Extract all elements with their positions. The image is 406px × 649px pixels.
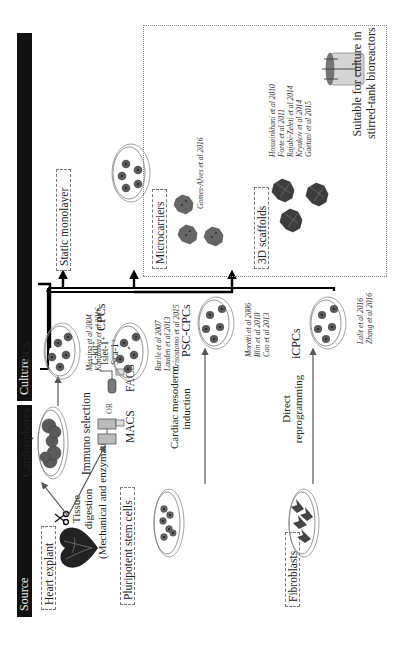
icpcs-dish-icon (306, 295, 350, 351)
citation: Kryukov et al 2014 (295, 84, 304, 157)
citation: Messina et al 2004 (85, 307, 94, 371)
3d-scaffolds-icon (270, 159, 340, 239)
bioreactor-note-line-2: stirred-tank bioreactors (364, 29, 378, 139)
microcarriers-label: Microcarriers (154, 201, 166, 264)
static-monolayer-box: Static monolayer (56, 169, 71, 271)
immuno-selection-label: Immuno selection (80, 392, 92, 475)
citation: Forte et al 2011 (277, 84, 286, 157)
icpcs-citations: Lalit et al 2016 Zhang et al 2016 (356, 293, 374, 344)
psc-cpcs-label: PSC-CPCs (180, 304, 192, 357)
diagram-canvas: Source Culture Heart explant Pluripotent… (0, 0, 406, 649)
direct-line-2: reprogramming (292, 369, 304, 449)
static-monolayer-label: Static monolayer (58, 188, 70, 266)
cpcs-label: CPCs (95, 304, 107, 331)
fibroblasts-dish-icon (285, 487, 323, 559)
psc-cpcs-citations: Moretti et al 2006 Blin et al 2010 Cao e… (244, 303, 271, 357)
citation: Lauden et al 2013 (163, 305, 172, 371)
citation: Zhang et al 2016 (365, 293, 374, 344)
3d-scaffolds-citations: Hosseinkhani et al 2010 Forte et al 2011… (268, 84, 313, 157)
bioreactor-note-line-1: Suitable for culture in (350, 29, 364, 139)
3d-scaffolds-box: 3D scaffolds (254, 187, 269, 269)
direct-line-1: Direct (280, 369, 292, 449)
cardiospheres-label: Cardiospheres (20, 408, 32, 477)
or-label: OR (104, 403, 116, 414)
icpcs-label: iCPCs (290, 328, 302, 359)
citation: Gaetani et al 2015 (304, 84, 313, 157)
citation: Hosseinkhani et al 2010 (268, 84, 277, 157)
cpcs-citations: Barile et al 2007 Lauden et al 2013 Cris… (154, 305, 181, 371)
cpcs-dish-icon (108, 321, 152, 383)
citation: Moretti et al 2006 (244, 303, 253, 357)
citation: Gomes-Alves et al 2016 (196, 138, 205, 209)
bioreactor-note: Suitable for culture in stirred-tank bio… (350, 29, 378, 139)
macs-label: MACS (124, 410, 136, 443)
cardiac-mesoderm-line-2: induction (180, 369, 192, 449)
cardiospheres-dish-icon (34, 405, 72, 481)
citation: Barile et al 2007 (154, 305, 163, 371)
direct-reprogramming-label: Direct reprogramming (280, 369, 304, 449)
pluripotent-dish-icon (150, 487, 188, 559)
figure-frame: Source Culture Heart explant Pluripotent… (0, 0, 406, 649)
cdcs-dish-icon (40, 321, 84, 381)
microcarriers-citations: Gomes-Alves et al 2016 (196, 138, 205, 209)
psc-cpcs-dish-icon (194, 295, 238, 351)
cardiac-mesoderm-induction-label: Cardiac mesoderm induction (168, 369, 192, 449)
cardiac-mesoderm-line-1: Cardiac mesoderm (168, 369, 180, 449)
microcarriers-box: Microcarriers (152, 189, 167, 269)
citation: Blin et al 2010 (253, 303, 262, 357)
cdcs-label: CDCs (20, 342, 32, 371)
citation: Rajabi-Zeleti et al 2014 (286, 84, 295, 157)
3d-scaffolds-label: 3D scaffolds (256, 206, 268, 264)
citation: Lalit et al 2016 (356, 293, 365, 344)
citation: Cao et al 2013 (262, 303, 271, 357)
